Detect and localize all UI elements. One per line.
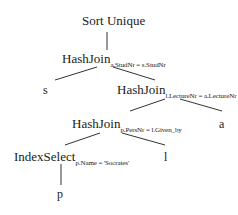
indexselect-node: IndexSelectp.Name = 'Socrates' [14,150,129,170]
relation-p-label: p [57,187,63,201]
hashjoin-label: HashJoin [117,82,165,97]
hashjoin-label: HashJoin [62,51,110,66]
sort-unique-node: Sort Unique [82,14,145,28]
tree-edges [0,0,238,215]
relation-a-label: a [219,117,224,131]
sort-unique-label: Sort Unique [82,13,145,28]
relation-s-label: s [43,83,48,97]
hashjoin-lecturenr-node: HashJoinl.LectureNr = a.LectureNr [117,83,236,103]
select-condition: p.Name = 'Socrates' [75,159,129,167]
indexselect-label: IndexSelect [14,149,75,164]
relation-l-label: l [164,150,167,164]
join-condition: p.PersNr = l.Given_by [120,126,181,134]
relation-a-leaf: a [219,118,224,130]
relation-p-leaf: p [57,188,63,200]
join-condition: l.LectureNr = a.LectureNr [165,92,236,100]
hashjoin-persnr-node: HashJoinp.PersNr = l.Given_by [72,117,182,137]
join-condition: a.StudNr = s.StudNr [110,61,165,69]
hashjoin-label: HashJoin [72,116,120,131]
relation-s-leaf: s [43,84,48,96]
relation-l-leaf: l [164,151,167,163]
hashjoin-studnr-node: HashJoina.StudNr = s.StudNr [62,52,166,72]
